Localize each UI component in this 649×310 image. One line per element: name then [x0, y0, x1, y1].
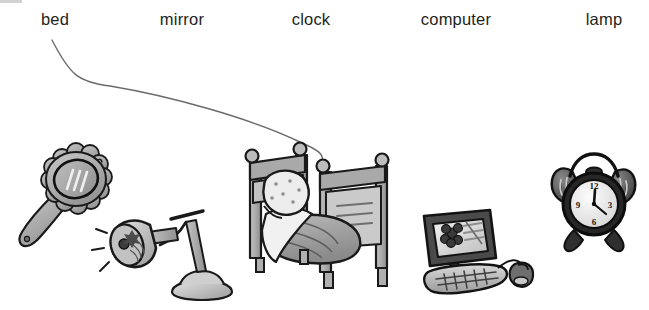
- bed-finial-foot-left: [317, 160, 330, 173]
- clock-center-pin: [592, 202, 596, 206]
- lamp-arm: [186, 220, 206, 272]
- bed-pillow: [263, 171, 308, 215]
- clock-numeral-6: 6: [592, 217, 597, 227]
- lamp-picture[interactable]: [92, 211, 232, 300]
- bed-finial-foot-right: [376, 154, 389, 167]
- bed-finial-left: [246, 150, 259, 163]
- computer-picture[interactable]: [424, 210, 533, 293]
- lamp-light-rays: [92, 229, 109, 271]
- worksheet-canvas: bed mirror clock computer lamp: [0, 0, 649, 310]
- bed-picture[interactable]: [246, 143, 389, 289]
- answer-line-bed-to-bed[interactable]: [52, 40, 322, 161]
- clock-picture[interactable]: 12 3 6 9: [552, 154, 636, 251]
- bed-finial-right: [294, 143, 307, 156]
- clock-numeral-3: 3: [608, 200, 613, 210]
- illustration-layer: 12 3 6 9: [0, 0, 649, 310]
- clock-numeral-9: 9: [576, 200, 581, 210]
